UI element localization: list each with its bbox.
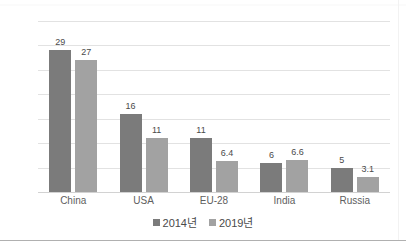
bar-usa-2014년[interactable]: 16	[120, 114, 142, 192]
bar-value-label: 11	[152, 125, 161, 135]
legend-label: 2019년	[219, 214, 253, 230]
bar-usa-2019년[interactable]: 11	[146, 138, 168, 192]
bar-russia-2014년[interactable]: 5	[331, 168, 353, 192]
bar-china-2014년[interactable]: 29	[49, 50, 71, 192]
x-axis-label-china: China	[38, 192, 108, 210]
bar-value-label: 6.6	[291, 147, 304, 157]
bar-eu-28-2014년[interactable]: 11	[190, 138, 212, 192]
bar-pair: 1611	[113, 21, 175, 192]
bar-value-label: 11	[196, 125, 205, 135]
bar-china-2019년[interactable]: 27	[75, 60, 97, 192]
bar-india-2014년[interactable]: 6	[260, 163, 282, 192]
bar-group: 1611	[108, 21, 178, 192]
bottom-rule	[0, 240, 406, 241]
x-axis-label-usa: USA	[108, 192, 178, 210]
bar-india-2019년[interactable]: 6.6	[286, 160, 308, 192]
bar-group: 53.1	[320, 21, 390, 192]
bar-pair: 53.1	[324, 21, 386, 192]
legend-item-2019년[interactable]: 2019년	[209, 214, 253, 230]
bar-eu-28-2019년[interactable]: 6.4	[216, 161, 238, 192]
x-axis-label-india: India	[249, 192, 319, 210]
plot-area: 05101520253035 29271611116.466.653.1	[0, 12, 406, 192]
top-band	[0, 4, 406, 6]
bar-value-label: 16	[126, 101, 136, 111]
bar-value-label: 29	[55, 37, 65, 47]
bar-value-label: 27	[81, 47, 91, 57]
bar-group: 66.6	[249, 21, 319, 192]
bar-group: 116.4	[179, 21, 249, 192]
bar-pair: 2927	[42, 21, 104, 192]
bar-value-label: 5	[339, 155, 344, 165]
bar-groups: 29271611116.466.653.1	[38, 21, 390, 192]
legend-swatch-icon	[209, 219, 216, 226]
legend-label: 2014년	[163, 214, 197, 230]
chart-legend: 2014년2019년	[0, 214, 406, 230]
x-axis-label-russia: Russia	[320, 192, 390, 210]
legend-swatch-icon	[153, 219, 160, 226]
bar-group: 2927	[38, 21, 108, 192]
x-axis-label-eu-28: EU-28	[179, 192, 249, 210]
bar-pair: 66.6	[253, 21, 315, 192]
bar-value-label: 3.1	[362, 164, 375, 174]
x-axis-labels: ChinaUSAEU-28IndiaRussia	[38, 192, 390, 210]
bar-value-label: 6	[269, 150, 274, 160]
bar-value-label: 6.4	[221, 148, 234, 158]
bar-chart: · · ·· · 05101520253035 29271611116.466.…	[0, 0, 406, 247]
bar-russia-2019년[interactable]: 3.1	[357, 177, 379, 192]
right-edge-rule	[398, 0, 399, 240]
legend-item-2014년[interactable]: 2014년	[153, 214, 197, 230]
bar-pair: 116.4	[183, 21, 245, 192]
